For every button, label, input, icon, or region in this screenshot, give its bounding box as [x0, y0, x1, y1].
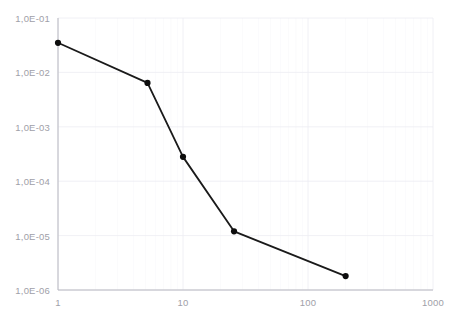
x-axis-tick-label: 100 — [300, 297, 316, 308]
y-axis-tick-label: 1,0E-05 — [0, 230, 50, 241]
data-point-marker — [343, 273, 349, 279]
data-point-marker — [55, 40, 61, 46]
x-axis-tick-label: 1000 — [422, 297, 444, 308]
x-axis-tick-label: 10 — [178, 297, 189, 308]
y-axis-tick-label: 1,0E-01 — [0, 13, 50, 24]
data-point-marker — [180, 154, 186, 160]
data-markers-group — [55, 40, 349, 280]
x-axis-tick-label: 1 — [55, 297, 60, 308]
y-axis-tick-label: 1,0E-02 — [0, 67, 50, 78]
gridlines-group — [58, 18, 433, 290]
axis-lines-group — [58, 18, 433, 290]
y-axis-tick-label: 1,0E-03 — [0, 121, 50, 132]
y-axis-tick-label: 1,0E-04 — [0, 176, 50, 187]
chart-container: 1,0E-011,0E-021,0E-031,0E-041,0E-051,0E-… — [0, 0, 460, 320]
chart-plot-area — [0, 0, 460, 320]
data-point-marker — [231, 228, 237, 234]
y-axis-tick-label: 1,0E-06 — [0, 285, 50, 296]
data-point-marker — [144, 80, 150, 86]
